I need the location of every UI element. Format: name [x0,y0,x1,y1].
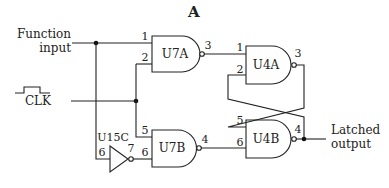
svg-text:3: 3 [295,47,302,60]
diagram-title: A [187,3,200,21]
clock-pulse-icon [15,87,50,93]
svg-text:7: 7 [128,142,135,155]
svg-text:1: 1 [237,41,244,54]
junction-dot-output [302,137,307,142]
latch-circuit-diagram: A Function input CLK U7A 1 2 3 U15C 6 7 … [0,0,389,188]
svg-text:3: 3 [205,39,212,52]
svg-text:4: 4 [202,133,209,146]
svg-text:U4A: U4A [253,58,280,72]
svg-text:6: 6 [142,146,149,159]
gate-u7a: U7A 1 2 3 [142,30,212,72]
svg-text:U15C: U15C [97,131,129,144]
svg-text:5: 5 [142,124,149,137]
inverter-u15c: U15C 6 7 [97,131,134,172]
gate-u4b: U4B 5 6 4 [237,114,302,158]
svg-text:U7B: U7B [159,141,186,155]
function-input-label-2: input [39,41,71,55]
latched-output-label-2: output [331,137,371,151]
svg-text:6: 6 [99,146,106,159]
svg-text:2: 2 [142,51,149,64]
svg-text:4: 4 [295,123,302,136]
svg-text:6: 6 [237,136,244,149]
clk-label: CLK [25,94,52,108]
latched-output-label-1: Latched [331,123,380,137]
svg-text:U4B: U4B [253,132,280,146]
svg-text:1: 1 [142,30,149,43]
svg-text:2: 2 [237,63,244,76]
svg-text:U7A: U7A [162,47,189,61]
function-input-label-1: Function [17,27,71,41]
gate-u7b: U7B 5 6 4 [142,124,209,167]
gate-u4a: U4A 1 2 3 [237,41,302,84]
